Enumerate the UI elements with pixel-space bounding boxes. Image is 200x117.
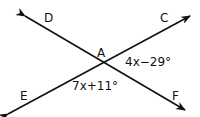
point-label-d: D xyxy=(44,12,53,24)
point-label-c: C xyxy=(160,12,168,24)
point-label-a: A xyxy=(97,47,105,59)
vertical-angles-diagram: D C A E F 4x−29° 7x+11° xyxy=(0,0,200,117)
angle-eaf-expression: 7x+11° xyxy=(72,80,118,92)
point-label-f: F xyxy=(172,90,179,102)
point-label-e: E xyxy=(20,90,28,102)
angle-caf-expression: 4x−29° xyxy=(125,56,171,68)
